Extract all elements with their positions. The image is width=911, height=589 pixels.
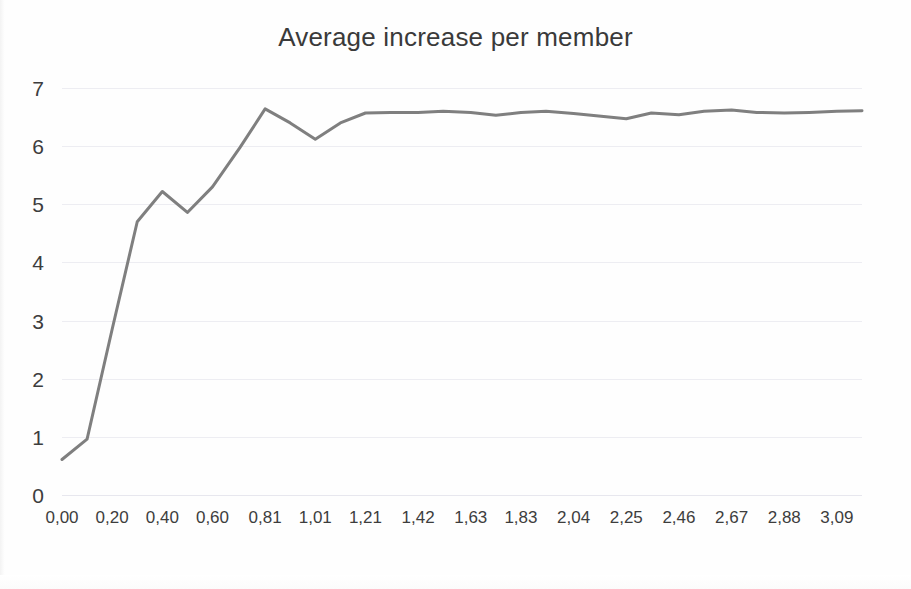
x-tick-label: 2,25 bbox=[610, 508, 643, 528]
x-tick-label: 2,67 bbox=[715, 508, 748, 528]
y-tick-label: 5 bbox=[32, 194, 44, 215]
y-tick-label: 2 bbox=[32, 368, 44, 389]
x-tick-label: 1,83 bbox=[504, 508, 537, 528]
y-tick-label: 4 bbox=[32, 252, 44, 273]
scan-edge-bottom bbox=[0, 575, 911, 589]
x-tick-label: 0,40 bbox=[146, 508, 179, 528]
gridline bbox=[62, 88, 862, 89]
y-tick-label: 1 bbox=[32, 426, 44, 447]
x-tick-label: 1,01 bbox=[299, 508, 332, 528]
gridline bbox=[62, 321, 862, 322]
y-tick-label: 0 bbox=[32, 485, 44, 506]
x-axis-tick-labels: 0,000,200,400,600,811,011,211,421,631,83… bbox=[0, 508, 911, 538]
gridline bbox=[62, 437, 862, 438]
x-tick-label: 1,21 bbox=[349, 508, 382, 528]
gridline bbox=[62, 379, 862, 380]
y-tick-label: 3 bbox=[32, 310, 44, 331]
gridline bbox=[62, 262, 862, 263]
chart-figure: Average increase per member 76543210 0,0… bbox=[0, 0, 911, 589]
gridline bbox=[62, 495, 862, 496]
x-tick-label: 2,04 bbox=[557, 508, 590, 528]
y-axis-tick-labels: 76543210 bbox=[0, 88, 56, 495]
x-tick-label: 0,20 bbox=[96, 508, 129, 528]
x-tick-label: 2,88 bbox=[768, 508, 801, 528]
x-tick-label: 0,60 bbox=[196, 508, 229, 528]
x-tick-label: 0,81 bbox=[249, 508, 282, 528]
x-tick-label: 2,46 bbox=[662, 508, 695, 528]
x-tick-label: 3,09 bbox=[820, 508, 853, 528]
chart-title: Average increase per member bbox=[0, 22, 911, 53]
y-tick-label: 6 bbox=[32, 136, 44, 157]
y-tick-label: 7 bbox=[32, 78, 44, 99]
gridline bbox=[62, 146, 862, 147]
plot-area bbox=[62, 88, 862, 495]
x-tick-label: 1,42 bbox=[402, 508, 435, 528]
x-tick-label: 1,63 bbox=[454, 508, 487, 528]
x-tick-label: 0,00 bbox=[45, 508, 78, 528]
gridline bbox=[62, 204, 862, 205]
